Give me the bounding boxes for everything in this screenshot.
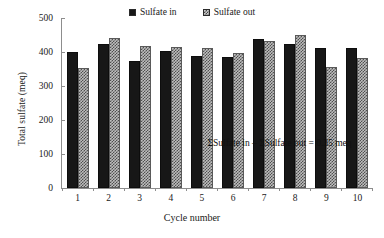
- x-axis-tick-label: 1: [75, 193, 80, 203]
- x-axis-tick-label: 5: [200, 193, 205, 203]
- bar-sulfate-out: [78, 68, 89, 188]
- x-axis-tick: 9: [311, 188, 342, 208]
- x-axis-tick: 10: [342, 188, 373, 208]
- bar-sulfate-out: [295, 35, 306, 188]
- bar-group: [217, 18, 248, 188]
- x-axis-ticks: 12345678910: [62, 188, 373, 208]
- x-axis-tick: 8: [280, 188, 311, 208]
- x-axis-tick: 2: [93, 188, 124, 208]
- x-axis-tick-label: 6: [231, 193, 236, 203]
- bar-group: [280, 18, 311, 188]
- bar-group: [249, 18, 280, 188]
- bar-sulfate-out: [233, 53, 244, 188]
- bar-group: [186, 18, 217, 188]
- x-axis-tick: 3: [124, 188, 155, 208]
- bar-group: [93, 18, 124, 188]
- y-axis-tick-label: 0: [48, 183, 53, 193]
- x-axis-tick-mark: [62, 188, 63, 191]
- bar-sulfate-in: [98, 44, 109, 188]
- x-axis-tick-label: 8: [293, 193, 298, 203]
- x-axis-tick: 7: [249, 188, 280, 208]
- bar-sulfate-in: [160, 51, 171, 188]
- bar-group: [311, 18, 342, 188]
- bar-sulfate-in: [129, 61, 140, 189]
- x-axis-tick: 6: [217, 188, 248, 208]
- x-axis-tick-label: 3: [137, 193, 142, 203]
- chart-legend: Sulfate in Sulfate out: [0, 8, 384, 18]
- legend-swatch-solid-icon: [129, 9, 136, 16]
- bar-sulfate-in: [222, 57, 233, 188]
- y-axis-tick-label: 200: [39, 115, 53, 125]
- legend-item-sulfate-out: Sulfate out: [203, 8, 255, 18]
- bar-sulfate-out: [326, 67, 337, 188]
- x-axis-tick-mark: [372, 188, 373, 191]
- x-axis-tick-label: 7: [262, 193, 267, 203]
- bar-sulfate-out: [171, 47, 182, 188]
- bar-groups: [62, 18, 373, 188]
- legend-label-sulfate-out: Sulfate out: [214, 8, 255, 18]
- bar-group: [155, 18, 186, 188]
- x-axis-tick: 1: [62, 188, 93, 208]
- bar-sulfate-in: [346, 48, 357, 188]
- bar-sulfate-out: [202, 48, 213, 188]
- y-axis-tick-label: 400: [39, 47, 53, 57]
- bar-group: [342, 18, 373, 188]
- x-axis-tick: 5: [186, 188, 217, 208]
- x-axis-title: Cycle number: [0, 212, 384, 223]
- y-axis-tick-label: 300: [39, 81, 53, 91]
- bar-group: [124, 18, 155, 188]
- x-axis-tick: 4: [155, 188, 186, 208]
- plot-area: 0100200300400500 ΣSulfate in – ΣSulfate …: [62, 18, 373, 188]
- bar-sulfate-in: [253, 39, 264, 188]
- y-axis-title: Total sulfate (meq): [17, 39, 27, 179]
- y-axis-tick-label: 100: [39, 149, 53, 159]
- legend-swatch-hatched-icon: [203, 9, 210, 16]
- bar-sulfate-in: [315, 48, 326, 188]
- bar-sulfate-in: [191, 56, 202, 188]
- chart-figure: Sulfate in Sulfate out Total sulfate (me…: [0, 0, 384, 238]
- bar-sulfate-in: [284, 44, 295, 189]
- x-axis-tick-label: 10: [353, 193, 363, 203]
- bar-sulfate-out: [357, 58, 368, 188]
- y-axis-tick-label: 500: [39, 13, 53, 23]
- legend-label-sulfate-in: Sulfate in: [140, 8, 177, 18]
- bar-sulfate-in: [67, 52, 78, 188]
- x-axis-tick-label: 2: [106, 193, 111, 203]
- bar-sulfate-out: [140, 46, 151, 188]
- x-axis-tick-label: 9: [324, 193, 329, 203]
- x-axis-tick-label: 4: [168, 193, 173, 203]
- legend-item-sulfate-in: Sulfate in: [129, 8, 177, 18]
- bar-sulfate-out: [264, 41, 275, 188]
- bar-group: [62, 18, 93, 188]
- bar-sulfate-out: [109, 38, 120, 188]
